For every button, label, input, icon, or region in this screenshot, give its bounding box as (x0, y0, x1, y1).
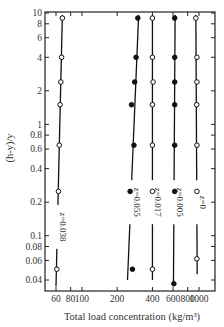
open-circle-marker (195, 257, 200, 262)
filled-circle-marker (172, 281, 177, 286)
series-line (132, 15, 139, 180)
filled-circle-marker (129, 102, 134, 107)
series-z-0-055 (128, 15, 141, 280)
x-tick-label: 60 (51, 294, 61, 304)
plot-frame (45, 12, 215, 291)
series-line (196, 15, 197, 180)
open-circle-marker (55, 267, 60, 272)
filled-circle-marker (172, 55, 177, 60)
y-tick-label: 0.6 (30, 144, 42, 154)
open-circle-marker (151, 80, 156, 85)
y-tick-label: 0.08 (25, 242, 42, 252)
open-circle-marker (150, 55, 155, 60)
x-tick-label: 100 (75, 294, 90, 304)
y-tick-label: 0.06 (25, 256, 42, 266)
open-circle-marker (150, 267, 155, 272)
open-circle-marker (59, 55, 64, 60)
y-tick-label: 8 (37, 19, 42, 29)
series-z-0-038 (55, 15, 65, 286)
open-circle-marker (60, 16, 65, 21)
filled-circle-marker (136, 16, 141, 21)
x-axis-ticks: 60801002004006008001000 (51, 12, 209, 304)
open-circle-marker (195, 55, 200, 60)
filled-circle-marker (172, 80, 177, 85)
x-axis-title: Total load concentration (kg/m³) (64, 311, 201, 323)
open-circle-marker (59, 80, 64, 85)
filled-circle-marker (172, 143, 177, 148)
open-circle-marker (194, 102, 199, 107)
open-circle-marker (56, 189, 61, 194)
y-tick-label: 0.8 (30, 130, 42, 140)
series-label: z=0 (198, 195, 208, 209)
y-tick-label: 2 (37, 86, 42, 96)
filled-circle-marker (128, 189, 133, 194)
y-axis-ticks: 0.040.060.080.10.20.40.60.81246810 (25, 8, 215, 285)
y-tick-label: 4 (37, 53, 42, 63)
open-circle-marker (195, 189, 200, 194)
filled-circle-marker (132, 143, 137, 148)
y-tick-label: 0.04 (25, 275, 42, 285)
series-label: z=0.055 (132, 188, 142, 218)
open-circle-marker (150, 16, 155, 21)
series-labels: z=0.038z=0.055z=0.017z=0.005z=0 (58, 188, 207, 243)
filled-circle-marker (172, 102, 177, 107)
x-tick-label: 600 (166, 294, 181, 304)
open-circle-marker (57, 143, 62, 148)
filled-circle-marker (132, 80, 137, 85)
x-tick-label: 200 (110, 294, 125, 304)
filled-circle-marker (172, 16, 177, 21)
y-tick-label: 1 (37, 120, 42, 130)
series-label: z=0.038 (58, 212, 68, 242)
chart: 60801002004006008001000 0.040.060.080.10… (0, 0, 224, 327)
series-label: z=0.017 (153, 188, 163, 218)
series-line (174, 15, 175, 180)
series-line (58, 15, 62, 205)
plot-border (45, 12, 215, 291)
open-circle-marker (150, 102, 155, 107)
open-circle-marker (58, 102, 63, 107)
y-tick-label: 0.4 (30, 164, 42, 174)
open-circle-marker (195, 143, 200, 148)
y-axis-title: (h-y)/y (4, 133, 16, 163)
open-circle-marker (195, 80, 200, 85)
filled-circle-marker (134, 55, 139, 60)
series-z-0 (194, 15, 200, 274)
series-line (128, 224, 130, 280)
y-tick-label: 0.1 (30, 231, 42, 241)
y-tick-label: 0.2 (30, 197, 42, 207)
series-z-0-017 (150, 15, 155, 280)
open-circle-marker (150, 143, 155, 148)
data-series (55, 15, 200, 286)
series-z-0-005 (172, 15, 177, 286)
y-tick-label: 10 (33, 8, 43, 18)
x-tick-label: 1000 (190, 294, 209, 304)
x-tick-label: 400 (145, 294, 160, 304)
filled-circle-marker (130, 267, 135, 272)
y-tick-label: 6 (37, 33, 42, 43)
open-circle-marker (194, 16, 199, 21)
series-label: z=0.005 (175, 188, 185, 218)
